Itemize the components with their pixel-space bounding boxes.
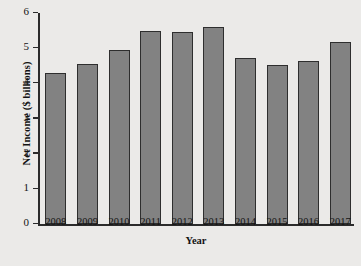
y-axis-tick: 5 bbox=[33, 47, 38, 49]
bar-chart: Net Income ($ billions) 0123456 20082009… bbox=[0, 0, 361, 266]
y-axis-line bbox=[38, 13, 40, 226]
bar bbox=[109, 50, 130, 224]
bar bbox=[330, 42, 351, 224]
y-axis-tick-label: 2 bbox=[24, 145, 30, 159]
y-axis-tick: 1 bbox=[33, 188, 38, 190]
bar bbox=[298, 61, 319, 225]
y-axis-tick: 4 bbox=[33, 82, 38, 84]
y-axis-tick: 6 bbox=[33, 12, 38, 14]
bar bbox=[45, 73, 66, 225]
bar bbox=[203, 27, 224, 224]
y-axis-tick-label: 3 bbox=[24, 110, 30, 124]
y-axis-tick-label: 1 bbox=[24, 180, 30, 194]
plot-area: 0123456 bbox=[38, 13, 354, 226]
x-axis-title: Year bbox=[38, 235, 354, 246]
bar bbox=[267, 65, 288, 224]
bar bbox=[172, 32, 193, 224]
y-axis-tick-label: 6 bbox=[24, 4, 30, 18]
y-axis-tick: 2 bbox=[33, 152, 38, 154]
x-axis-tick-label: 2017 bbox=[320, 216, 360, 227]
bar bbox=[77, 64, 98, 224]
bar bbox=[140, 31, 161, 225]
y-axis-tick-label: 5 bbox=[24, 39, 30, 53]
y-axis-tick-label: 4 bbox=[24, 74, 30, 88]
bar bbox=[235, 58, 256, 225]
y-axis-tick-label: 0 bbox=[24, 215, 30, 229]
y-axis-tick: 3 bbox=[33, 117, 38, 119]
